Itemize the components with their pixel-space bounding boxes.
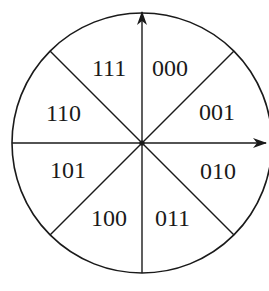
sector-label-110: 110	[46, 100, 81, 126]
code-wheel-diagram: 000 001 010 011 100 101 110 111	[0, 0, 269, 291]
sector-label-100: 100	[91, 205, 127, 231]
sector-label-101: 101	[50, 157, 86, 183]
sector-label-000: 000	[152, 55, 188, 81]
sector-label-010: 010	[200, 158, 236, 184]
sector-label-001: 001	[199, 99, 235, 125]
sector-label-011: 011	[155, 205, 190, 231]
center-point	[139, 140, 144, 145]
sector-label-111: 111	[92, 55, 126, 81]
